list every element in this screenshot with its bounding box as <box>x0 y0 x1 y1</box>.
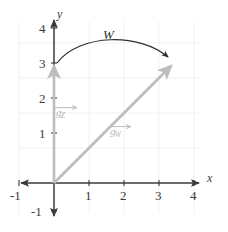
vector-g-z-label: gZ <box>56 105 66 118</box>
vector-g-w-label: gW <box>110 124 122 137</box>
transform-arc-label: W <box>103 28 114 41</box>
y-tick-label--1: -1 <box>31 205 42 218</box>
x-axis <box>19 180 199 186</box>
x-tick-label-1: 1 <box>85 189 92 202</box>
x-tick-label-3: 3 <box>155 189 162 202</box>
x-axis-label: x <box>207 172 212 184</box>
x-tick-label-2: 2 <box>120 189 127 202</box>
vector-diagram-figure: -1 1 2 3 4 4 3 2 1 -1 x y W gZ gW <box>0 0 228 232</box>
y-axis-label: y <box>57 8 62 20</box>
x-tick-label--1: -1 <box>10 189 21 202</box>
x-tick-label-4: 4 <box>190 189 197 202</box>
y-tick-label-4: 4 <box>39 22 46 35</box>
y-tick-label-3: 3 <box>39 57 46 70</box>
grid-lines <box>19 22 201 214</box>
vector-g-w-sub: W <box>115 130 122 139</box>
y-tick-label-1: 1 <box>39 127 46 140</box>
vector-g-z-sub: Z <box>61 111 65 120</box>
y-tick-label-2: 2 <box>39 92 46 105</box>
